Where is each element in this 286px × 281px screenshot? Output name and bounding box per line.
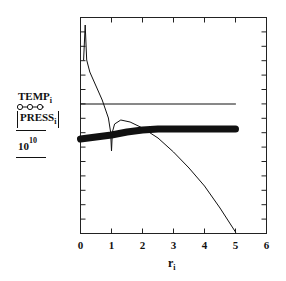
- x-tick-label: 4: [202, 239, 208, 251]
- x-tick-label: 0: [78, 239, 84, 251]
- circle-marker-icon: [16, 103, 48, 111]
- x-axis-label: ri: [168, 256, 176, 272]
- fraction-bar-bottom: [16, 157, 46, 158]
- y-label-divisor: 1010: [18, 138, 37, 152]
- x-tick-label: 6: [264, 239, 270, 251]
- x-tick-label: 5: [233, 239, 239, 251]
- x-tick-label: 3: [171, 239, 177, 251]
- series-lines: [81, 25, 236, 232]
- x-tick-label: 2: [140, 239, 146, 251]
- y-label-press: PRESSi: [17, 111, 59, 128]
- fraction-bar: [16, 130, 46, 131]
- x-tick-label: 1: [109, 239, 115, 251]
